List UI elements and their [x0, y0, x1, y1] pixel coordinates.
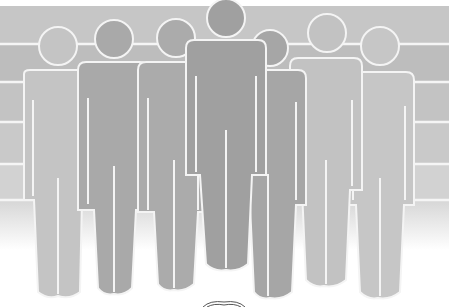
book-icon	[203, 302, 245, 307]
people-illustration	[0, 0, 449, 307]
illustration-svg	[0, 0, 449, 307]
